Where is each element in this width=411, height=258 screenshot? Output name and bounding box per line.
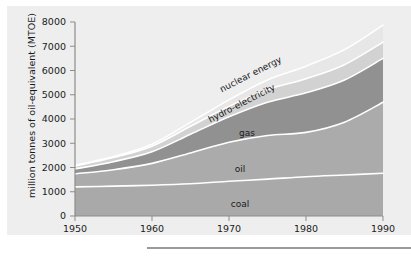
y-tick-label: 4000 <box>42 113 66 124</box>
y-tick-label: 2000 <box>42 162 66 173</box>
y-tick-label: 7000 <box>42 41 66 52</box>
y-tick-label: 5000 <box>42 89 66 100</box>
x-tick-label: 1970 <box>217 223 241 234</box>
y-tick-label: 8000 <box>42 16 66 27</box>
x-tick-label: 1980 <box>294 223 318 234</box>
x-tick-label: 1950 <box>63 223 87 234</box>
area-bands <box>75 25 383 216</box>
y-tick-label: 1000 <box>42 186 66 197</box>
stacked-area-chart: 010002000300040005000600070008000 195019… <box>0 0 411 258</box>
chart-screenshot: million tonnes of oil-equivalent (MTOE) … <box>0 0 411 258</box>
y-tick-label: 6000 <box>42 65 66 76</box>
band-label: oil <box>235 164 246 174</box>
band-label: gas <box>239 128 255 138</box>
y-tick-label: 0 <box>60 210 66 221</box>
y-tick-label: 3000 <box>42 138 66 149</box>
x-axis-ticks: 19501960197019801990 <box>63 216 395 234</box>
x-tick-label: 1960 <box>140 223 164 234</box>
x-tick-label: 1990 <box>371 223 395 234</box>
y-axis-ticks: 010002000300040005000600070008000 <box>42 16 75 221</box>
band-label: coal <box>231 199 249 209</box>
